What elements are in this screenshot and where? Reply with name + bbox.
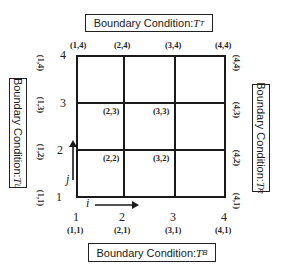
i-tick: 1: [73, 210, 79, 225]
node-label-interior: (2,3): [103, 106, 119, 116]
boundary-right-text: Boundary Condition:: [255, 82, 267, 182]
boundary-top-text: Boundary Condition:: [94, 17, 194, 29]
grid-line-vertical: [123, 55, 125, 198]
node-label-interior: (3,3): [153, 106, 169, 116]
node-label: (1,1): [67, 225, 83, 235]
node-label: (2,4): [114, 40, 130, 50]
grid-line-horizontal: [76, 149, 226, 151]
grid-line-horizontal: [76, 102, 226, 104]
node-label: (1,1): [36, 190, 46, 206]
boundary-condition-right: Boundary Condition: TR: [252, 84, 270, 192]
j-tick: 2: [57, 143, 63, 158]
node-label: (4,2): [232, 150, 242, 166]
node-label: (4,4): [215, 40, 231, 50]
boundary-top-subscript: T: [199, 19, 204, 28]
node-label: (4,1): [232, 193, 242, 209]
boundary-condition-top: Boundary Condition: TT: [85, 14, 213, 32]
node-label: (1,4): [36, 55, 46, 71]
node-label: (2,1): [114, 225, 130, 235]
j-tick: 4: [60, 48, 66, 63]
j-tick: 3: [60, 96, 66, 111]
boundary-condition-bottom: Boundary Condition: TB: [88, 243, 216, 262]
i-tick: 4: [221, 210, 227, 225]
node-label-interior: (2,2): [103, 153, 119, 163]
grid-border-right: [224, 55, 226, 198]
boundary-bottom-text: Boundary Condition:: [96, 247, 196, 259]
node-label-interior: (3,2): [153, 153, 169, 163]
boundary-left-text: Boundary Condition:: [12, 78, 24, 178]
node-label: (4,3): [232, 102, 242, 118]
grid-line-vertical: [174, 55, 176, 198]
boundary-condition-left: Boundary Condition: TL: [9, 78, 27, 188]
i-tick: 3: [170, 210, 176, 225]
node-label: (3,1): [165, 225, 181, 235]
boundary-right-subscript: R: [257, 188, 266, 194]
node-label: (4,1): [215, 225, 231, 235]
node-label: (3,4): [165, 40, 181, 50]
node-label: (4,4): [232, 55, 242, 71]
node-label: (1,4): [70, 40, 86, 50]
j-tick: 1: [56, 190, 62, 205]
grid-border-bottom: [76, 196, 226, 198]
i-axis-label: i: [86, 196, 89, 211]
boundary-bottom-subscript: B: [202, 248, 207, 257]
node-label: (1,3): [36, 97, 46, 113]
boundary-left-subscript: L: [14, 184, 23, 188]
node-label: (1,2): [36, 144, 46, 160]
grid-border-top: [76, 55, 226, 57]
i-axis-arrow-icon: [94, 200, 140, 210]
i-tick: 2: [119, 210, 125, 225]
j-axis-arrow-icon: [68, 139, 78, 181]
